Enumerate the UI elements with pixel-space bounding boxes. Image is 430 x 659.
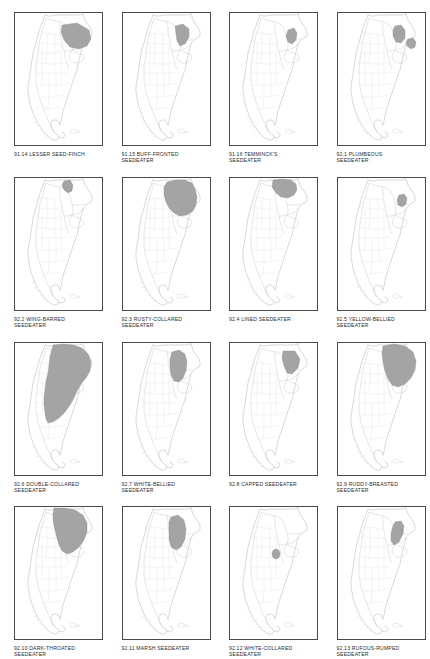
distribution-map (122, 342, 211, 476)
basemap-outlines (243, 179, 307, 305)
distribution-map (337, 12, 426, 146)
panel-caption: 92.2 WING-BARRED SEEDEATER (14, 316, 114, 328)
panel-caption: 91.14 LESSER SEED-FINCH (14, 151, 114, 157)
map-panel-92-13: 92.13 RUFOUS-RUMPED SEEDEATER (323, 494, 430, 659)
range-overlay (44, 344, 91, 423)
map-panel-91-15: 91.15 BUFF-FRONTED SEEDEATER (108, 0, 216, 165)
map-panel-92-8: 92.8 CAPPED SEEDEATER (215, 330, 323, 495)
panel-caption: 92.1 PLUMBEOUS SEEDEATER (337, 151, 430, 163)
basemap-outlines (28, 179, 92, 305)
range-overlay (53, 508, 87, 554)
panel-caption: 92.7 WHITE-BELLIED SEEDEATER (122, 481, 222, 493)
range-overlay (170, 350, 187, 382)
distribution-map (229, 12, 318, 146)
basemap-outlines (136, 344, 200, 470)
distribution-map (14, 506, 103, 640)
panel-caption: 92.13 RUFOUS-RUMPED SEEDEATER (337, 645, 430, 657)
panel-caption: 91.15 BUFF-FRONTED SEEDEATER (122, 151, 222, 163)
map-panel-92-10: 92.10 DARK-THROATED SEEDEATER (0, 494, 108, 659)
panel-caption: 92.5 YELLOW-BELLIED SEEDEATER (337, 316, 430, 328)
panel-caption: 92.6 DOUBLE-COLLARED SEEDEATER (14, 481, 114, 493)
distribution-map (14, 12, 103, 146)
panel-caption: 92.11 MARSH SEEDEATER (122, 645, 222, 651)
basemap-outlines (243, 508, 307, 634)
range-overlay (272, 549, 280, 559)
map-panel-91-14: 91.14 LESSER SEED-FINCH (0, 0, 108, 165)
map-panel-92-4: 92.4 LINED SEEDEATER (215, 165, 323, 330)
panel-caption: 92.9 RUDDY-BREASTED SEEDEATER (337, 481, 430, 493)
distribution-map (229, 506, 318, 640)
map-panel-92-6: 92.6 DOUBLE-COLLARED SEEDEATER (0, 330, 108, 495)
map-panel-92-7: 92.7 WHITE-BELLIED SEEDEATER (108, 330, 216, 495)
map-panel-92-2: 92.2 WING-BARRED SEEDEATER (0, 165, 108, 330)
map-panel-92-1: 92.1 PLUMBEOUS SEEDEATER (323, 0, 430, 165)
panel-caption: 92.12 WHITE-COLLARED SEEDEATER (229, 645, 329, 657)
distribution-map (122, 12, 211, 146)
map-panel-92-5: 92.5 YELLOW-BELLIED SEEDEATER (323, 165, 430, 330)
panel-caption: 92.8 CAPPED SEEDEATER (229, 481, 329, 487)
basemap-outlines (136, 14, 200, 140)
panel-caption: 91.16 TEMMINCK'S SEEDEATER (229, 151, 329, 163)
map-panel-92-9: 92.9 RUDDY-BREASTED SEEDEATER (323, 330, 430, 495)
map-panel-92-12: 92.12 WHITE-COLLARED SEEDEATER (215, 494, 323, 659)
distribution-map (122, 177, 211, 311)
range-overlay (272, 179, 297, 198)
range-overlay (61, 23, 91, 49)
range-overlay (62, 180, 73, 193)
basemap-outlines (136, 508, 200, 634)
map-panel-91-16: 91.16 TEMMINCK'S SEEDEATER (215, 0, 323, 165)
distribution-map (337, 342, 426, 476)
distribution-map (229, 177, 318, 311)
basemap-outlines (351, 14, 415, 140)
range-overlay (282, 351, 300, 374)
basemap-outlines (243, 14, 307, 140)
panel-caption: 92.4 LINED SEEDEATER (229, 316, 329, 322)
map-grid: 91.14 LESSER SEED-FINCH (0, 0, 430, 659)
range-overlay (175, 24, 189, 46)
plate-container: 91.14 LESSER SEED-FINCH (0, 0, 430, 659)
map-panel-92-11: 92.11 MARSH SEEDEATER (108, 494, 216, 659)
distribution-map (14, 342, 103, 476)
panel-caption: 92.10 DARK-THROATED SEEDEATER (14, 645, 114, 657)
range-overlay (169, 515, 186, 550)
map-panel-92-3: 92.3 RUSTY-COLLARED SEEDEATER (108, 165, 216, 330)
distribution-map (14, 177, 103, 311)
panel-caption: 92.3 RUSTY-COLLARED SEEDEATER (122, 316, 222, 328)
basemap-outlines (351, 508, 415, 634)
distribution-map (229, 342, 318, 476)
distribution-map (337, 177, 426, 311)
distribution-map (122, 506, 211, 640)
distribution-map (337, 506, 426, 640)
